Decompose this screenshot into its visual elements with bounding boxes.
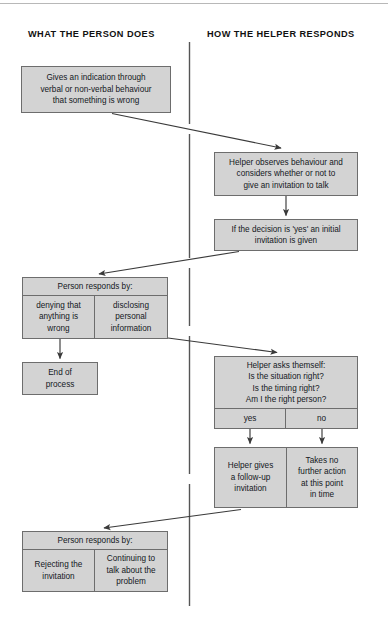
node-helper-observes-text: Helper observes behaviour and considers … (229, 157, 343, 191)
node-person-responds-1[interactable]: Person responds by: denying that anythin… (22, 277, 168, 339)
arrow-indication-to-observes (112, 114, 281, 149)
node-helper-asks-options: yes no (215, 409, 357, 428)
node-person-responds-2-header: Person responds by: (23, 532, 167, 550)
top-rule-divider (0, 3, 388, 4)
column-heading-right: HOW THE HELPER RESPONDS (207, 29, 355, 39)
node-end-of-process[interactable]: End of process (22, 362, 98, 395)
node-initial-invitation-text: If the decision is 'yes' an initial invi… (231, 224, 340, 247)
node-person-responds-1-body: denying that anything is wrong disclosin… (23, 296, 167, 338)
node-takes-no-action-text: Takes no further action at this point in… (298, 455, 346, 501)
node-helper-asks-header: Helper asks themself: Is the situation r… (215, 357, 357, 409)
node-helper-follow-up-text: Helper gives a follow-up invitation (228, 460, 274, 494)
node-helper-follow-up[interactable]: Helper gives a follow-up invitation (214, 447, 286, 508)
flowchart-canvas: WHAT THE PERSON DOES HOW THE HELPER RESP… (0, 0, 388, 624)
column-heading-left: WHAT THE PERSON DOES (28, 29, 155, 39)
node-helper-observes[interactable]: Helper observes behaviour and considers … (214, 152, 358, 196)
node-person-responds-2-cell-rejecting[interactable]: Rejecting the invitation (23, 550, 95, 591)
node-person-responds-2[interactable]: Person responds by: Rejecting the invita… (22, 531, 168, 592)
node-helper-asks-option-yes[interactable]: yes (215, 409, 286, 428)
node-helper-asks-option-no[interactable]: no (286, 409, 357, 428)
node-person-responds-2-cell-continuing[interactable]: Continuing to talk about the problem (95, 550, 167, 591)
node-person-responds-1-header: Person responds by: (23, 278, 167, 296)
node-person-indication[interactable]: Gives an indication through verbal or no… (21, 66, 171, 113)
node-person-responds-1-cell-disclosing[interactable]: disclosing personal information (95, 296, 167, 338)
node-takes-no-action[interactable]: Takes no further action at this point in… (286, 447, 358, 508)
arrow-follow-up-to-responds2 (104, 510, 241, 529)
arrow-disclosing-to-helper-asks (168, 338, 277, 353)
node-end-of-process-text: End of process (46, 367, 75, 390)
arrow-invitation-to-responds1 (99, 252, 239, 275)
node-initial-invitation[interactable]: If the decision is 'yes' an initial invi… (214, 219, 358, 251)
node-helper-asks[interactable]: Helper asks themself: Is the situation r… (214, 356, 358, 429)
node-person-responds-2-body: Rejecting the invitation Continuing to t… (23, 550, 167, 591)
node-person-responds-1-cell-denying[interactable]: denying that anything is wrong (23, 296, 95, 338)
node-person-indication-text: Gives an indication through verbal or no… (40, 72, 151, 106)
